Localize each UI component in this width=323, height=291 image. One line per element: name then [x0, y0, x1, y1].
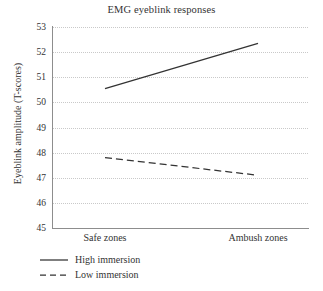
series-lines [53, 27, 308, 228]
chart-title: EMG eyeblink responses [0, 4, 323, 15]
y-axis-line [52, 26, 53, 229]
plot-area [53, 27, 308, 228]
x-tick-label-safe-zones: Safe zones [50, 232, 160, 243]
x-axis-line [52, 228, 309, 229]
x-tick-label-ambush-zones: Ambush zones [203, 232, 313, 243]
series-line-low-immersion [105, 158, 258, 176]
legend-item-high-immersion: High immersion [40, 252, 140, 267]
series-line-high-immersion [105, 43, 258, 88]
legend-label: High immersion [75, 254, 140, 265]
legend-item-low-immersion: Low immersion [40, 267, 140, 282]
legend: High immersion Low immersion [40, 252, 140, 282]
y-tick-label: 45 [18, 223, 46, 233]
solid-line-icon [40, 255, 68, 265]
legend-label: Low immersion [75, 269, 139, 280]
y-axis-label: Eyeblink amplitude (T-scores) [12, 29, 23, 219]
chart-figure: EMG eyeblink responses Eyeblink amplitud… [0, 0, 323, 291]
dashed-line-icon [40, 270, 68, 280]
